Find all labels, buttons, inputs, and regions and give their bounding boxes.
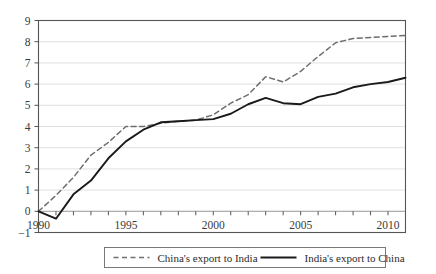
y-axis-tick-labels: −10123456789 <box>18 15 31 239</box>
y-axis-tick-label: 9 <box>25 15 31 27</box>
y-axis-tick-label: 3 <box>25 142 31 154</box>
y-axis-tick-label: 1 <box>25 184 31 196</box>
x-axis-tick-label: 1995 <box>114 219 137 231</box>
y-axis-tick-label: 6 <box>25 78 31 90</box>
legend-label-india-export: India's export to China <box>305 252 405 264</box>
x-axis-tick-label: 2005 <box>289 219 312 231</box>
x-axis-tick-label: 1990 <box>27 219 50 231</box>
y-axis-tick-label: 0 <box>25 205 31 217</box>
series-line <box>39 35 406 211</box>
y-axis-tick-label: 2 <box>25 163 31 175</box>
chart-figure: −10123456789 19901995200020052010 China'… <box>0 0 436 274</box>
x-axis-ticks <box>39 211 406 215</box>
y-axis-tick-label: 7 <box>25 57 31 69</box>
x-axis-tick-labels: 19901995200020052010 <box>27 219 400 231</box>
x-axis-tick-label: 2010 <box>377 219 400 231</box>
y-axis-tick-label: 8 <box>25 36 31 48</box>
y-axis-tick-label: 4 <box>25 121 31 133</box>
y-axis-tick-label: 5 <box>25 99 31 111</box>
y-axis-ticks <box>35 21 39 233</box>
chart-legend: China's export to IndiaIndia's export to… <box>105 248 405 268</box>
series-line <box>39 78 406 219</box>
legend-label-china-export: China's export to India <box>158 252 258 264</box>
x-axis-tick-label: 2000 <box>202 219 225 231</box>
line-chart: −10123456789 19901995200020052010 China'… <box>0 0 436 274</box>
